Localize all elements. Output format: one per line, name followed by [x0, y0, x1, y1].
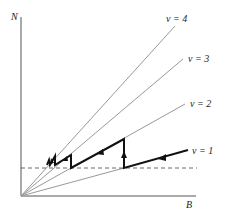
nu-rays-diagram: N B ν = 4 ν = 3 ν = 2 ν = 1	[0, 0, 228, 219]
arrow-icon	[96, 149, 104, 155]
ray-label-nu-1: ν = 1	[192, 145, 213, 156]
x-axis-label: B	[186, 199, 192, 210]
arrow-icon	[121, 151, 127, 158]
y-axis-label: N	[10, 11, 19, 22]
ray-nu-3	[21, 59, 183, 196]
ray-nu-1-thin	[21, 168, 124, 196]
arrow-icon	[62, 156, 68, 161]
ray-label-nu-2: ν = 2	[190, 98, 211, 109]
ray-label-nu-4: ν = 4	[166, 13, 187, 24]
ray-label-nu-3: ν = 3	[188, 53, 209, 64]
ray-nu-4	[21, 26, 175, 196]
